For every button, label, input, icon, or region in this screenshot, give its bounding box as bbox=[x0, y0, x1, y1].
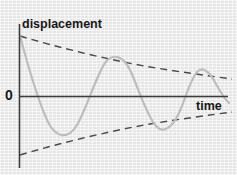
origin-tick-label: 0 bbox=[5, 88, 13, 102]
upper-envelope-curve bbox=[20, 36, 232, 79]
lower-envelope-curve bbox=[20, 112, 232, 155]
displacement-wave-curve bbox=[20, 36, 229, 135]
y-axis-label: displacement bbox=[22, 18, 102, 31]
x-axis-label: time bbox=[196, 100, 222, 113]
damped-oscillation-figure: displacement time 0 bbox=[0, 0, 237, 175]
